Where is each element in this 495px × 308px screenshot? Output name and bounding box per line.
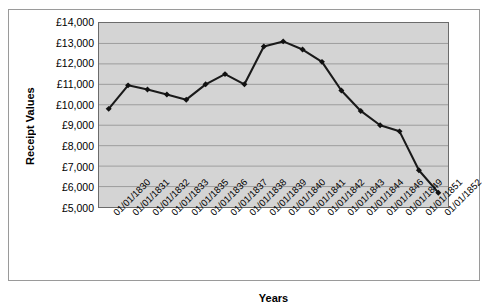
y-axis-tick-label: £12,000: [56, 57, 94, 69]
y-axis-tick-label: £14,000: [56, 16, 94, 28]
gridlines: [99, 43, 448, 186]
x-axis-title: Years: [98, 292, 449, 304]
data-point-marker: [164, 92, 170, 98]
y-axis-tick-label: £7,000: [62, 161, 94, 173]
y-axis-tick-label: £13,000: [56, 37, 94, 49]
y-axis-tick-label: £11,000: [57, 78, 94, 90]
y-axis-tick-label: £8,000: [62, 140, 94, 152]
y-axis-tick-label: £9,000: [62, 119, 94, 131]
y-axis-tick-labels: £14,000£13,000£12,000£11,000£10,000£9,00…: [39, 22, 96, 208]
y-axis-tick-label: £6,000: [62, 181, 94, 193]
data-point-marker: [144, 86, 150, 92]
data-point-markers: [106, 38, 442, 195]
y-axis-tick-label: £10,000: [56, 99, 94, 111]
y-axis-tick-label: £5,000: [62, 202, 94, 214]
chart-container: Receipt Values £14,000£13,000£12,000£11,…: [8, 9, 480, 281]
x-axis-tick-labels: 01/01/183001/01/183101/01/183201/01/1833…: [98, 210, 449, 280]
y-axis-title: Receipt Values: [21, 56, 39, 196]
